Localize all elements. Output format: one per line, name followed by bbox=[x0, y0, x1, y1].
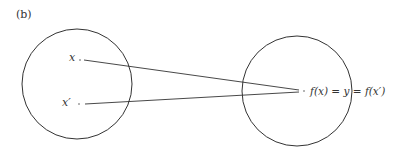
mapping-line-x-prime bbox=[85, 92, 299, 104]
image-point-label: f(x) = y = f(x′) bbox=[309, 85, 385, 97]
mapping-line-x bbox=[84, 60, 299, 90]
domain-circle bbox=[22, 29, 132, 139]
image-point-dot bbox=[303, 90, 304, 91]
point-x-prime-label: x′ bbox=[62, 96, 71, 109]
point-x-dot bbox=[79, 59, 80, 60]
mapping-diagram: (b) x x′ f(x) = y = f(x′) bbox=[0, 0, 394, 153]
panel-label: (b) bbox=[16, 8, 32, 21]
point-x-prime-dot bbox=[78, 103, 79, 104]
point-x-label: x bbox=[69, 51, 76, 64]
